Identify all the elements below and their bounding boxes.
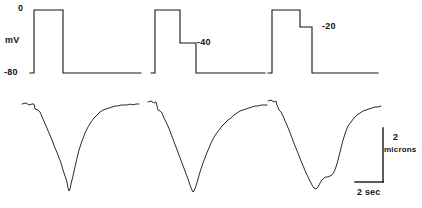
- voltage-traces-group: [30, 10, 378, 73]
- voltage-trace-panel-3: [268, 10, 378, 73]
- displacement-trace-panel-1: [22, 103, 139, 191]
- displacement-trace-panel-2: [148, 101, 267, 192]
- scale-bar: [355, 128, 383, 182]
- displacement-traces-group: [22, 100, 381, 192]
- voltage-trace-panel-1: [30, 10, 141, 73]
- displacement-trace-panel-3: [268, 100, 381, 189]
- voltage-trace-panel-2: [151, 10, 265, 73]
- electrophysiology-figure: 0 mV -80 -40 -20 2 microns 2 sec: [0, 0, 422, 208]
- figure-canvas: [0, 0, 422, 208]
